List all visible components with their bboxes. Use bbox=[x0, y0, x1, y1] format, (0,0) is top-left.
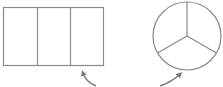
rectangle-thirds-shape bbox=[4, 8, 104, 66]
rectangle-outline bbox=[4, 8, 104, 66]
diagram-canvas bbox=[0, 0, 223, 87]
curved-arrow-icon-to-rectangle bbox=[83, 73, 96, 86]
curved-arrow-icon-to-circle bbox=[160, 74, 180, 86]
circle-thirds-shape bbox=[153, 2, 221, 70]
circle-sector-line-2 bbox=[187, 36, 216, 53]
circle-sector-line-3 bbox=[158, 36, 187, 53]
